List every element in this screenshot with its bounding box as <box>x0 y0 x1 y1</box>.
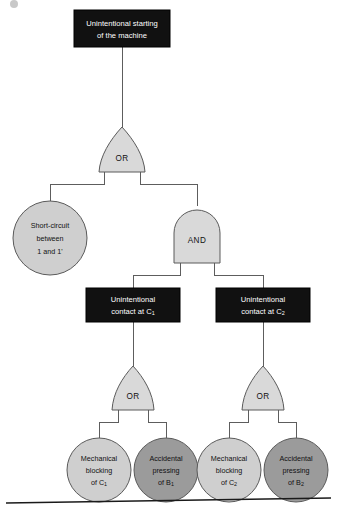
event-contact-c2-line2-pre: contact at C <box>241 307 282 316</box>
gate-and-label: AND <box>188 236 207 245</box>
basic-mech-block-c2-node[interactable]: Mechanical blocking of C2 <box>197 438 261 502</box>
basic-acc-press-b1-line3-sub: 1 <box>171 482 174 488</box>
basic-mech-block-c1-node[interactable]: Mechanical blocking of C1 <box>67 438 131 502</box>
basic-acc-press-b2-node[interactable]: Accidental pressing of B2 <box>264 438 328 502</box>
top-event-box <box>74 10 170 47</box>
event-contact-c2-node[interactable]: Unintentional contact at C2 <box>216 288 310 322</box>
event-contact-c1-line2: contact at C1 <box>111 307 155 317</box>
basic-short-circuit-line2: between <box>36 234 63 243</box>
basic-mech-block-c1-line1: Mechanical <box>81 454 118 463</box>
gate-or-left-shape <box>112 366 154 410</box>
edge-or-right-to-mech-block-c2 <box>229 410 248 438</box>
basic-acc-press-b1-line2: pressing <box>152 466 179 475</box>
basic-mech-block-c2-line1: Mechanical <box>211 454 248 463</box>
basic-mech-block-c2-line3-sub: 2 <box>234 482 237 488</box>
edge-or-left-to-mech-block-c1 <box>99 410 118 438</box>
basic-acc-press-b1-line1: Accidental <box>149 454 183 463</box>
basic-short-circuit-line1: Short-circuit <box>31 221 69 230</box>
basic-mech-block-c2-line2: blocking <box>216 466 242 475</box>
event-contact-c1-node[interactable]: Unintentional contact at C1 <box>86 288 180 322</box>
top-event-node[interactable]: Unintentional starting of the machine <box>74 10 170 47</box>
basic-mech-block-c1-line2: blocking <box>86 466 112 475</box>
edge-or-right-to-acc-press-b2 <box>278 410 296 438</box>
gate-or-top-label: OR <box>115 154 128 163</box>
gate-or-right-shape <box>242 366 284 410</box>
event-contact-c1-box <box>86 288 180 322</box>
event-contact-c2-line2: contact at C2 <box>241 307 285 317</box>
gate-or-left-label: OR <box>126 392 139 401</box>
event-contact-c2-box <box>216 288 310 322</box>
basic-acc-press-b2-line2: pressing <box>282 466 309 475</box>
basic-short-circuit-node[interactable]: Short-circuit between 1 and 1' <box>13 201 87 275</box>
gate-or-top[interactable]: OR <box>99 127 145 172</box>
edge-or-left-to-acc-press-b1 <box>148 410 166 438</box>
edge-and-to-contact-c1 <box>133 263 180 288</box>
basic-acc-press-b2-line3-sub: 2 <box>301 482 304 488</box>
basic-acc-press-b2-line1: Accidental <box>279 454 313 463</box>
event-contact-c1-line2-sub: 1 <box>152 311 155 317</box>
event-contact-c1-line1: Unintentional <box>111 295 156 304</box>
event-contact-c2-line2-sub: 2 <box>282 311 285 317</box>
basic-acc-press-b2-line3-pre: of B <box>288 478 301 487</box>
basic-mech-block-c2-line3-pre: of C <box>221 478 234 487</box>
fault-tree-canvas: Unintentional starting of the machine OR… <box>0 0 337 509</box>
top-event-label-line1: Unintentional starting <box>86 19 157 28</box>
event-contact-c2-line1: Unintentional <box>241 295 286 304</box>
edge-or-top-to-and <box>140 172 197 206</box>
gate-or-top-shape <box>99 127 145 172</box>
gate-or-right-label: OR <box>256 392 269 401</box>
gate-and[interactable]: AND <box>174 210 220 263</box>
scan-artifact-mark <box>10 0 18 8</box>
basic-acc-press-b1-node[interactable]: Accidental pressing of B1 <box>134 438 198 502</box>
basic-mech-block-c1-line3-pre: of C <box>91 478 104 487</box>
top-event-label-line2: of the machine <box>97 31 147 40</box>
basic-short-circuit-line3: 1 and 1' <box>37 247 63 256</box>
edge-or-top-to-short-circuit <box>50 172 104 201</box>
edge-and-to-contact-c2 <box>214 263 263 288</box>
gate-or-right[interactable]: OR <box>242 366 284 410</box>
fault-tree-diagram: Unintentional starting of the machine OR… <box>0 0 337 509</box>
basic-mech-block-c1-line3-sub: 1 <box>104 482 107 488</box>
event-contact-c1-line2-pre: contact at C <box>111 307 152 316</box>
gate-or-left[interactable]: OR <box>112 366 154 410</box>
basic-acc-press-b1-line3-pre: of B <box>158 478 171 487</box>
